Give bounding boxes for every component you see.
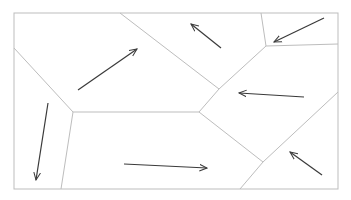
arrow-cell-top-left-icon [78,49,137,90]
vector-field-diagram [0,0,351,200]
cell-borders [14,13,338,189]
cell-border [199,89,219,112]
arrows [36,18,324,180]
arrow-cell-bottom-left-icon [36,103,48,180]
cell-border [219,46,266,89]
cell-border [263,92,338,162]
cell-border [266,44,338,46]
cell-border [261,13,266,46]
arrow-cell-bottom-right-icon [290,152,322,175]
arrow-cell-top-middle-icon [191,24,221,48]
cell-border [61,112,73,189]
cell-border [199,112,263,162]
cell-border [14,48,73,112]
cell-border [240,162,263,189]
arrow-cell-top-right-icon [274,18,324,42]
arrow-cell-bottom-middle-icon [124,164,207,168]
arrow-cell-middle-right-icon [239,93,304,97]
